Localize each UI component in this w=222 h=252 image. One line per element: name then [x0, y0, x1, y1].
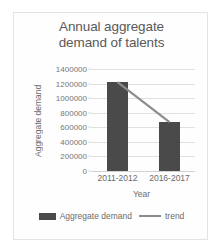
x-tick-label-2016-2017: 2016-2017: [149, 173, 190, 183]
y-tick-label: 800000: [60, 108, 87, 117]
chart-title: Annual aggregate demand of talents: [14, 19, 209, 50]
plot-area: 1400000 1200000 1000000 800000 600000 40…: [91, 69, 195, 171]
legend-entry-trend: trend: [139, 211, 184, 221]
y-tick-label: 1000000: [56, 94, 87, 103]
y-tick-label: 0: [83, 167, 87, 176]
legend-label-aggregate-demand: Aggregate demand: [60, 211, 132, 221]
legend-line-swatch-icon: [139, 215, 161, 217]
y-tick-label: 1200000: [56, 79, 87, 88]
x-tick-label-2011-2012: 2011-2012: [97, 173, 137, 183]
trend-line: [91, 69, 195, 171]
axis-baseline: 0: [91, 171, 195, 172]
y-axis-title: Aggregate demand: [31, 65, 44, 177]
x-axis-title: Year: [74, 189, 209, 199]
chart-title-line-2: demand of talents: [14, 35, 209, 51]
chart-title-line-1: Annual aggregate: [14, 19, 209, 35]
chart-legend: Aggregate demand trend: [14, 211, 209, 221]
y-tick-label: 600000: [60, 123, 87, 132]
legend-entry-aggregate-demand: Aggregate demand: [39, 211, 132, 221]
legend-label-trend: trend: [165, 211, 184, 221]
y-tick-label: 200000: [60, 152, 87, 161]
legend-bar-swatch-icon: [39, 213, 56, 220]
trend-line-segment: [118, 82, 170, 122]
y-tick-label: 400000: [60, 137, 87, 146]
chart-container: Annual aggregate demand of talents Aggre…: [13, 12, 208, 240]
y-tick-label: 1400000: [56, 65, 87, 74]
